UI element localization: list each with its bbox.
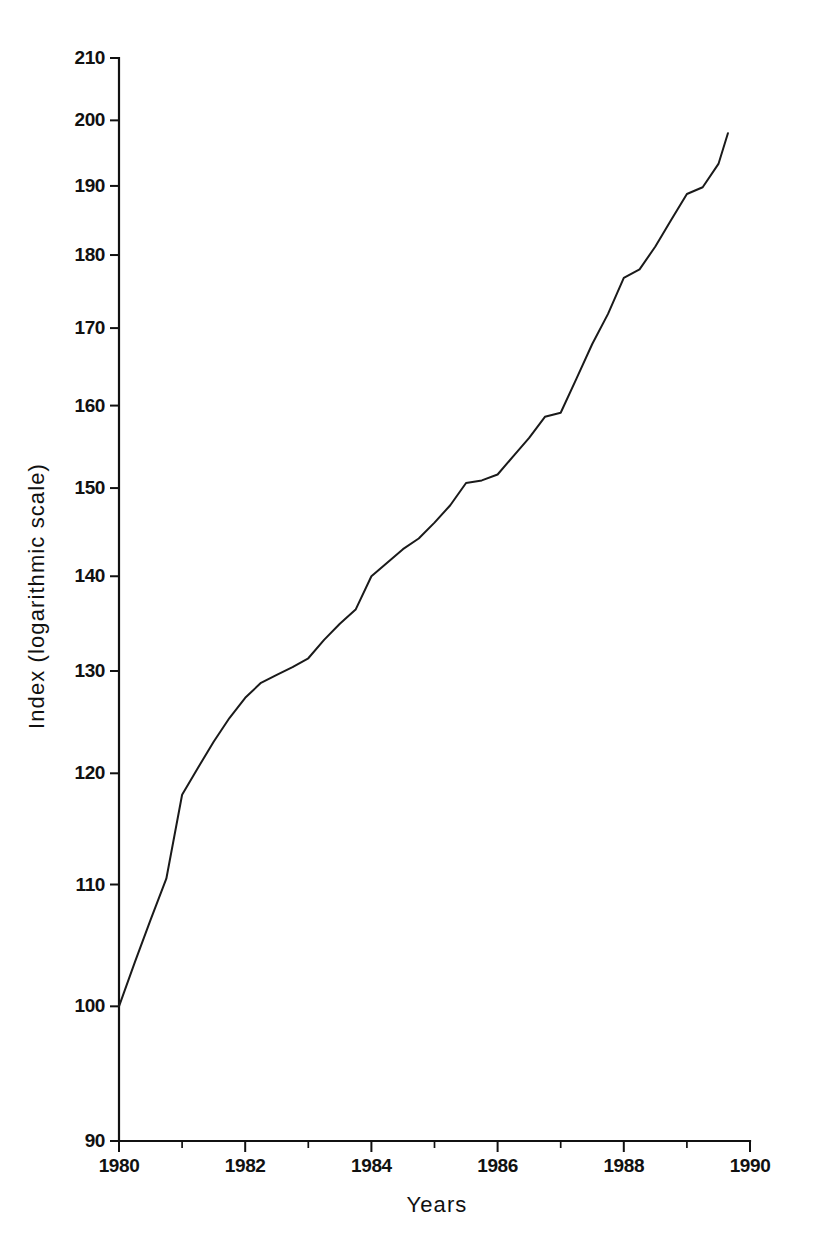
data-series-line: [119, 133, 728, 1006]
y-tick-label-210: 210: [74, 47, 105, 68]
x-axis-title: Years: [407, 1192, 468, 1217]
y-tick-label-160: 160: [74, 395, 105, 416]
x-tick-label-1986: 1986: [477, 1155, 518, 1176]
y-tick-label-190: 190: [74, 175, 105, 196]
y-axis-tick-labels: 90100110120130140150160170180190200210: [74, 47, 105, 1151]
y-tick-label-140: 140: [74, 565, 105, 586]
y-tick-label-110: 110: [76, 874, 105, 895]
x-tick-label-1990: 1990: [730, 1155, 771, 1176]
x-tick-label-1982: 1982: [225, 1155, 266, 1176]
x-tick-label-1984: 1984: [351, 1155, 393, 1176]
y-tick-label-180: 180: [74, 244, 105, 265]
line-chart-svg: Index (logarithmic scale) Years 90100110…: [0, 0, 821, 1247]
x-axis-ticks: [119, 1141, 750, 1152]
x-axis-tick-labels: 198019821984198619881990: [99, 1155, 771, 1176]
y-tick-label-170: 170: [74, 317, 105, 338]
y-axis-ticks: [110, 58, 119, 1141]
chart-figure: Index (logarithmic scale) Years 90100110…: [0, 0, 821, 1247]
x-tick-label-1988: 1988: [603, 1155, 644, 1176]
y-tick-label-90: 90: [85, 1130, 105, 1151]
y-axis-title: Index (logarithmic scale): [24, 463, 49, 729]
y-tick-label-200: 200: [74, 109, 105, 130]
y-tick-label-100: 100: [74, 995, 105, 1016]
y-tick-label-130: 130: [74, 660, 105, 681]
y-tick-label-150: 150: [74, 477, 105, 498]
y-tick-label-120: 120: [74, 762, 105, 783]
x-tick-label-1980: 1980: [99, 1155, 140, 1176]
